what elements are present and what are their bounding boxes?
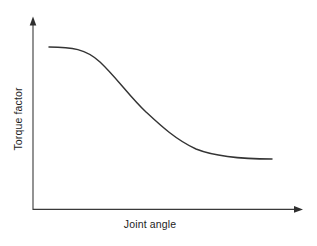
- x-axis-arrow-icon: [294, 206, 303, 213]
- plot-canvas: Torque factor Joint angle: [0, 0, 317, 246]
- y-axis-label: Torque factor: [12, 87, 24, 151]
- y-axis-arrow-icon: [30, 17, 37, 26]
- x-axis-label: Joint angle: [124, 218, 176, 230]
- torque-factor-figure: Torque factor Joint angle: [0, 0, 317, 246]
- torque-factor-curve: [49, 47, 272, 159]
